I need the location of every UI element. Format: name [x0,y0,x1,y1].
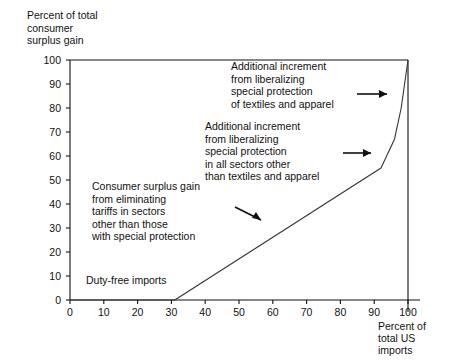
y-tick-label: 20 [49,246,61,258]
annotation-other-sectors: Additional increment from liberalizing s… [205,120,319,183]
arrow-right-icon-top [357,90,387,98]
y-tick-label: 0 [55,294,61,306]
y-tick-label: 30 [49,222,61,234]
x-tick-label: 80 [335,306,347,318]
x-tick-label: 50 [233,306,245,318]
x-tick-label: 70 [301,306,313,318]
y-axis-ticks: 0102030405060708090100 [43,54,70,306]
y-tick-label: 60 [49,150,61,162]
y-tick-label: 70 [49,126,61,138]
x-tick-label: 60 [267,306,279,318]
arrow-right-icon-middle [343,149,371,157]
x-tick-label: 100 [399,306,417,318]
annotation-duty-free-imports: Duty-free imports [86,274,167,287]
x-tick-label: 0 [67,306,73,318]
y-tick-label: 40 [49,198,61,210]
y-tick-label: 10 [49,270,61,282]
x-tick-label: 30 [166,306,178,318]
x-axis-ticks: 0102030405060708090100 [67,300,417,318]
annotation-consumer-surplus-gain: Consumer surplus gain from eliminating t… [92,180,200,243]
x-axis-title: Percent of total US imports [378,320,426,357]
x-tick-label: 40 [199,306,211,318]
chart-page: Percent of total consumer surplus gain 0… [0,0,453,364]
x-tick-label: 20 [132,306,144,318]
y-tick-label: 50 [49,174,61,186]
x-tick-label: 10 [98,306,110,318]
y-tick-label: 80 [49,102,61,114]
arrow-down-right-icon-lower [235,207,261,220]
x-tick-label: 90 [368,306,380,318]
annotation-textiles-apparel: Additional increment from liberalizing s… [231,60,334,110]
y-tick-label: 90 [49,78,61,90]
y-tick-label: 100 [43,54,61,66]
